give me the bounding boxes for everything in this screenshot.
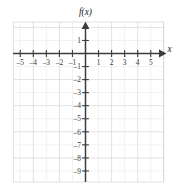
x-axis-tick-labels: –5–4–3–2–112345 (16, 58, 153, 67)
x-tick-label-0: –5 (16, 58, 25, 67)
x-tick-label-6: 2 (110, 58, 114, 67)
x-tick-label-8: 4 (136, 58, 140, 67)
x-tick-label-5: 1 (97, 58, 101, 67)
x-axis-label: x (166, 44, 172, 54)
y-tick-label-4: –4 (73, 101, 82, 110)
y-tick-label-5: –5 (73, 114, 82, 123)
y-axis-arrow-icon (82, 22, 90, 30)
coordinate-plane: –5–4–3–2–112345 1–1–2–3–4–5–6–7–8–9 f(x)… (0, 0, 178, 194)
x-tick-label-7: 3 (123, 58, 127, 67)
y-tick-label-2: –2 (73, 75, 82, 84)
graph-figure: –5–4–3–2–112345 1–1–2–3–4–5–6–7–8–9 f(x)… (0, 0, 178, 194)
y-axis-label: f(x) (79, 7, 92, 18)
x-tick-label-9: 5 (149, 58, 153, 67)
y-tick-label-0: 1 (77, 36, 81, 45)
y-tick-label-3: –3 (73, 88, 82, 97)
y-tick-label-8: –8 (73, 154, 82, 163)
x-axis-arrow-icon (159, 50, 167, 58)
x-tick-label-3: –2 (55, 58, 64, 67)
y-tick-label-9: –9 (73, 167, 82, 176)
x-tick-label-2: –3 (42, 58, 51, 67)
y-tick-label-6: –6 (73, 128, 82, 137)
x-tick-label-1: –4 (29, 58, 38, 67)
y-tick-label-1: –1 (73, 62, 82, 71)
y-tick-label-7: –7 (73, 141, 82, 150)
